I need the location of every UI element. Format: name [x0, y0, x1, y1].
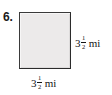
- problem-number: 6.: [3, 11, 13, 23]
- dimension-right-unit: mi: [89, 38, 101, 49]
- dimension-bottom-unit: mi: [45, 78, 57, 89]
- square-shape: [19, 12, 71, 69]
- exercise-figure-panel: 6. 3 1 2 mi 3 1 2 mi: [0, 0, 112, 95]
- dimension-right-denominator: 2: [81, 43, 86, 50]
- dimension-bottom-numerator: 1: [37, 75, 42, 82]
- dimension-bottom-whole: 3: [31, 78, 37, 89]
- dimension-bottom-fraction: 1 2: [37, 75, 42, 90]
- dimension-right-whole: 3: [75, 38, 81, 49]
- dimension-label-bottom: 3 1 2 mi: [31, 75, 56, 91]
- dimension-label-right: 3 1 2 mi: [75, 35, 100, 51]
- dimension-right-numerator: 1: [81, 35, 86, 42]
- dimension-right-fraction: 1 2: [81, 35, 86, 50]
- dimension-bottom-denominator: 2: [37, 83, 42, 90]
